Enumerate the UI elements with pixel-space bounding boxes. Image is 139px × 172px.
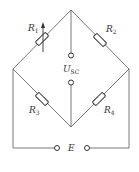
label-r3: R3: [28, 105, 40, 116]
bridge-circuit: R1 R2 R3 R4 USC E: [0, 0, 139, 172]
resistor-r2: [93, 33, 106, 46]
label-r4: R4: [103, 105, 115, 116]
label-r2: R2: [105, 24, 117, 35]
source-terminal-left: [55, 146, 60, 151]
resistor-r4: [92, 92, 105, 105]
source-terminal-right: [85, 146, 90, 151]
label-output-voltage: USC: [63, 64, 80, 75]
label-r1: R1: [27, 23, 39, 34]
resistor-r3: [35, 92, 48, 105]
arrow-head-icon: [41, 22, 45, 28]
resistor-r1: [35, 32, 48, 45]
output-terminal-bottom: [69, 80, 74, 85]
label-source: E: [67, 143, 75, 153]
output-terminal-top: [69, 53, 74, 58]
